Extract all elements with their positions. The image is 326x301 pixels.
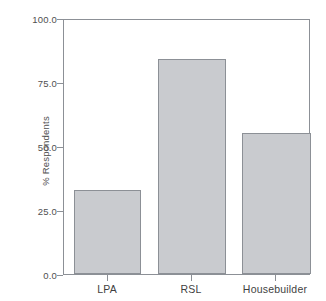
x-tick-label-rsl: RSL <box>180 283 201 295</box>
x-tick-mark-rsl <box>191 275 192 281</box>
bar-chart: % Respondents 0.0 25.0 50.0 75.0 100.0 L… <box>0 0 326 301</box>
x-tick-label-housebuilder: Housebuilder <box>243 283 307 295</box>
y-tick-label-0: 0.0 <box>11 270 57 281</box>
y-tick-mark-0 <box>57 275 63 276</box>
bar-rsl <box>158 59 226 274</box>
x-tick-mark-housebuilder <box>275 275 276 281</box>
x-tick-mark-lpa <box>107 275 108 281</box>
bar-housebuilder <box>242 133 311 274</box>
plot-area <box>63 19 310 275</box>
y-tick-label-75: 75.0 <box>11 78 57 89</box>
y-tick-label-100: 100.0 <box>11 14 57 25</box>
x-tick-label-lpa: LPA <box>97 283 117 295</box>
y-tick-label-25: 25.0 <box>11 206 57 217</box>
y-tick-label-50: 50.0 <box>11 142 57 153</box>
bar-lpa <box>74 190 141 274</box>
